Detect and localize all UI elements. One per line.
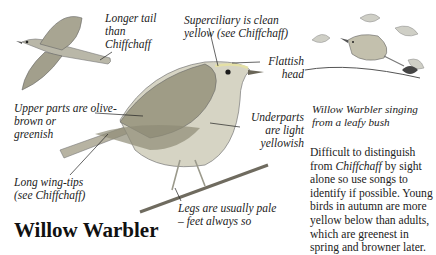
label-line: Underparts (244, 111, 304, 124)
label-superciliary: Superciliary is clean yellow (see Chiffc… (184, 14, 288, 40)
label-line: Long wing-tips (14, 176, 85, 189)
label-line: Longer tail (105, 12, 156, 25)
label-line: are light (244, 124, 304, 137)
label-head: Flattish head (262, 55, 304, 81)
label-wingtips: Long wing-tips (see Chiffchaff) (14, 176, 85, 202)
label-line: Flattish (262, 55, 304, 68)
label-line: Superciliary is clean (184, 14, 288, 27)
description-italic: Chiffchaff (335, 160, 381, 173)
label-tail: Longer tail than Chiffchaff (105, 12, 156, 51)
label-line: head (262, 68, 304, 81)
label-line: than (105, 25, 156, 38)
label-line: Chiffchaff (105, 38, 156, 51)
label-underparts: Underparts are light yellowish (244, 111, 304, 150)
label-line: Legs are usually pale (178, 202, 276, 215)
label-upperparts: Upper parts are olive- brown or greenish (14, 102, 117, 141)
label-line: yellowish (244, 137, 304, 150)
label-line: greenish (14, 128, 117, 141)
label-line: Upper parts are olive- (14, 102, 117, 115)
label-line: brown or (14, 115, 117, 128)
species-title: Willow Warbler (14, 218, 158, 243)
flying-bird-illustration (16, 16, 112, 90)
singing-bird-illustration (305, 14, 424, 78)
label-line: – feet always so (178, 215, 276, 228)
label-line: (see Chiffchaff) (14, 189, 85, 202)
description-part: by sight alone so use songs to identify … (310, 160, 433, 255)
description-text: Difficult to distinguish from Chiffchaff… (310, 146, 436, 255)
caption-line: Willow Warbler singing (312, 103, 418, 116)
caption-line: from a leafy bush (312, 116, 418, 129)
label-legs: Legs are usually pale – feet always so (178, 202, 276, 228)
label-line: yellow (see Chiffchaff) (184, 27, 288, 40)
illustration-caption: Willow Warbler singing from a leafy bush (312, 103, 418, 129)
